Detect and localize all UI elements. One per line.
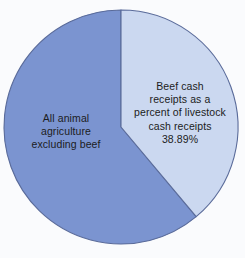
- pie-chart-svg: [0, 0, 245, 258]
- pie-chart: Beef cash receipts as a percent of lives…: [0, 0, 245, 258]
